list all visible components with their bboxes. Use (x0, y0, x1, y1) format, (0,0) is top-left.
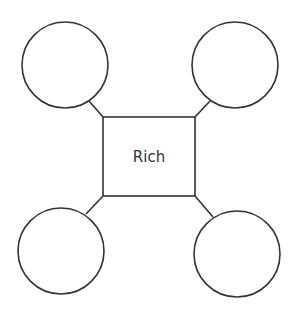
connector-bottom-left (86, 196, 103, 214)
connector-bottom-right (195, 196, 213, 217)
connector-top-right (195, 101, 210, 117)
circle-bottom-left (18, 208, 104, 294)
concept-map: Rich (0, 0, 293, 313)
circle-top-right (192, 22, 278, 108)
circle-top-left (22, 22, 108, 108)
connector-top-left (89, 101, 103, 117)
center-box-label: Rich (133, 148, 165, 166)
circle-bottom-right (194, 211, 280, 297)
